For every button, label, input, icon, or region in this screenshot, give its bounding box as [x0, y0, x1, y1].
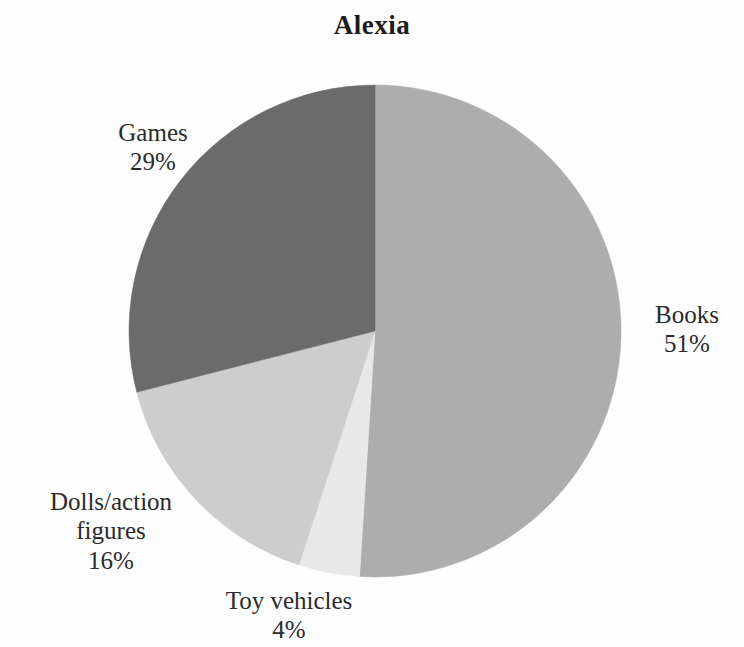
- slice-label-games-name: Games: [88, 118, 218, 147]
- slice-label-books: Books 51%: [635, 300, 739, 359]
- slice-label-dolls-value: 16%: [18, 546, 204, 575]
- pie-chart-figure: Alexia Games 29% Books 51% Dolls/action …: [0, 0, 744, 647]
- slice-label-dolls-name-line1: Dolls/action: [18, 487, 204, 516]
- slice-label-books-name: Books: [635, 300, 739, 329]
- slice-label-dolls-action-figures: Dolls/action figures 16%: [18, 487, 204, 575]
- slice-label-dolls-name-line2: figures: [18, 516, 204, 545]
- slice-label-toys-name: Toy vehicles: [196, 586, 382, 615]
- slice-label-books-value: 51%: [635, 329, 739, 358]
- slice-label-toys-value: 4%: [196, 615, 382, 644]
- slice-label-toy-vehicles: Toy vehicles 4%: [196, 586, 382, 645]
- slice-label-games-value: 29%: [88, 147, 218, 176]
- slice-label-games: Games 29%: [88, 118, 218, 177]
- pie-slice-books: [360, 85, 622, 577]
